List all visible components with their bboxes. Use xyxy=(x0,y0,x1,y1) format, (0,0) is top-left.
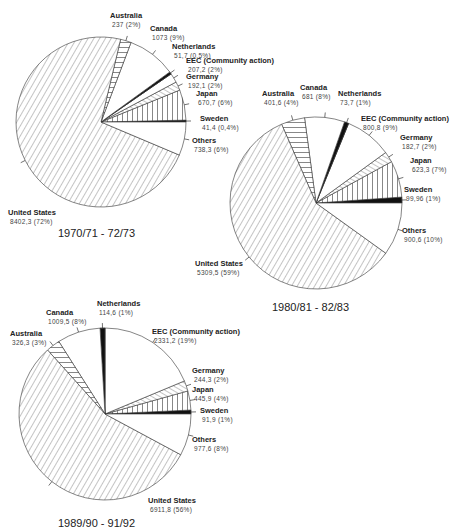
slice-label-tick xyxy=(184,139,189,140)
slice-label-value: 182,7 (2%) xyxy=(402,143,437,151)
slice-label-value: 445,9 (4%) xyxy=(194,395,229,403)
slice-label-tick xyxy=(369,131,372,135)
slice-label-tick xyxy=(245,257,249,260)
slice-label-value: 8402,3 (72%) xyxy=(10,218,53,226)
slice-label-name: Others xyxy=(402,226,426,235)
slice-label-name: Sweden xyxy=(200,406,229,415)
slice-label-value: 1073 (9%) xyxy=(152,34,185,42)
slice-label-value: 738,3 (6%) xyxy=(194,146,229,154)
slice-label-tick xyxy=(50,342,53,346)
slice-label-value: 5309,5 (59%) xyxy=(197,269,240,277)
slice-label-tick xyxy=(49,482,52,486)
slice-label-name: Others xyxy=(192,136,216,145)
slice-label-tick xyxy=(186,384,191,386)
slice-label-name: Australia xyxy=(262,89,295,98)
slice-label-value: 99,96 (1%) xyxy=(406,195,441,203)
slice-label-name: United States xyxy=(8,208,56,217)
slice-label-name: Germany xyxy=(400,133,433,142)
slice-label-name: Japan xyxy=(192,385,214,394)
slice-label-tick xyxy=(291,115,292,120)
slice-label-value: 41,4 (0,4%) xyxy=(202,124,239,132)
slice-label-value: 207,2 (2%) xyxy=(188,66,223,74)
slice-label-value: 1009,5 (8%) xyxy=(48,318,87,326)
slice-label-value: 977,6 (8%) xyxy=(194,445,229,453)
slice-label-value: 670,7 (6%) xyxy=(198,99,233,107)
slice-label-value: 800,8 (9%) xyxy=(363,124,398,132)
slice-label-name: Netherlands xyxy=(338,89,381,98)
slice-label-value: 91,9 (1%) xyxy=(202,416,233,424)
slice-label-name: Canada xyxy=(150,24,178,33)
slice-label-name: United States xyxy=(148,496,196,505)
slice-label-name: Others xyxy=(192,435,216,444)
slice-label-tick xyxy=(126,36,127,41)
slice-label-tick xyxy=(184,104,189,105)
slice-label-tick xyxy=(170,70,174,73)
pie-chart-1980-83: Sweden99,96 (1%)Japan623,3 (7%)Germany18… xyxy=(195,83,449,289)
slice-label-value: 114,6 (1%) xyxy=(99,309,133,317)
slice-label-name: Germany xyxy=(192,366,225,375)
slice-label-name: Netherlands xyxy=(172,42,215,51)
slice-label-name: Sweden xyxy=(200,114,229,123)
slice-label-value: 2331,2 (19%) xyxy=(154,337,197,345)
slice-label-name: Australia xyxy=(10,329,43,338)
slice-label-tick xyxy=(174,75,178,78)
slice-label-value: 401,6 (4%) xyxy=(264,99,299,107)
slice-label-value: 623,3 (7%) xyxy=(412,166,447,174)
slice-label-name: Canada xyxy=(300,83,328,92)
slice-label-name: Sweden xyxy=(404,185,433,194)
slice-label-name: Japan xyxy=(410,156,432,165)
slice-label-value: 900,6 (10%) xyxy=(404,236,443,244)
slice-label-tick xyxy=(389,154,393,157)
slice-label-value: 681 (8%) xyxy=(302,93,331,101)
slice-label-value: 244,3 (2%) xyxy=(194,376,229,384)
slice-label-tick xyxy=(178,84,183,86)
slice-label-tick xyxy=(399,177,404,178)
slice-label-name: Netherlands xyxy=(97,299,140,308)
slice-label-name: Australia xyxy=(110,11,143,20)
slice-label-value: 51,7 (0,5%) xyxy=(174,52,211,60)
slice-label-value: 326,3 (3%) xyxy=(12,339,47,347)
slice-label-value: 192,1 (2%) xyxy=(188,82,223,90)
slice-label-tick xyxy=(153,50,156,54)
pie-charts-figure: Sweden41,4 (0,4%)Japan670,7 (6%)Germany1… xyxy=(0,0,467,530)
chart-title: 1989/90 - 91/92 xyxy=(58,517,135,529)
pie-chart-1989-92: Sweden91,9 (1%)Japan445,9 (4%)Germany244… xyxy=(10,299,240,514)
slice-label-name: Germany xyxy=(186,72,219,81)
slice-label-tick xyxy=(325,112,326,117)
chart-title: 1970/71 - 72/73 xyxy=(58,227,135,239)
slice-label-name: Canada xyxy=(46,308,74,317)
slice-label-value: 6911,8 (56%) xyxy=(150,506,192,514)
slice-label-name: EEC (Community action) xyxy=(361,114,449,123)
slice-label-tick xyxy=(21,160,25,162)
slice-label-tick xyxy=(347,118,349,123)
slice-label-value: 237 (2%) xyxy=(112,21,141,29)
slice-label-name: Japan xyxy=(196,89,218,98)
slice-label-name: United States xyxy=(195,259,243,268)
slice-label-value: 73,7 (1%) xyxy=(340,99,371,107)
slice-label-tick xyxy=(77,327,79,332)
slice-label-name: EEC (Community action) xyxy=(152,327,240,336)
chart-title: 1980/81 - 82/83 xyxy=(272,301,349,313)
